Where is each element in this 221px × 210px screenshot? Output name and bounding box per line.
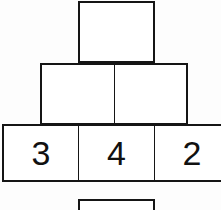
block-base-left[interactable]: 3 <box>2 124 79 182</box>
block-base-right-label: 2 <box>183 136 202 170</box>
block-base-center-label: 4 <box>107 136 126 170</box>
block-base-center[interactable]: 4 <box>78 124 155 182</box>
block-base-right[interactable]: 2 <box>154 124 221 182</box>
block-apex[interactable] <box>78 1 155 63</box>
block-pyramid-figure: 3 4 2 <box>0 0 221 210</box>
block-base-left-label: 3 <box>32 136 51 170</box>
block-middle-right[interactable] <box>114 63 188 125</box>
block-below-base[interactable] <box>78 199 155 210</box>
block-middle-left[interactable] <box>40 63 115 125</box>
